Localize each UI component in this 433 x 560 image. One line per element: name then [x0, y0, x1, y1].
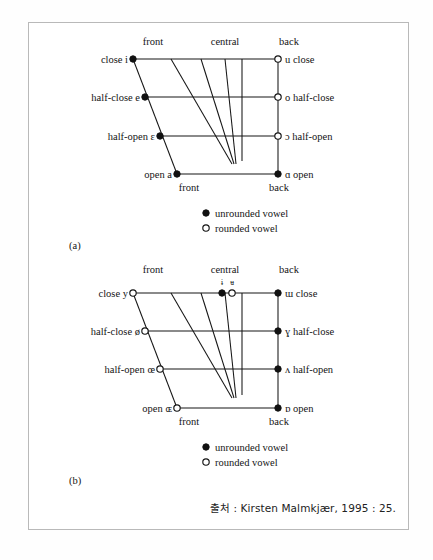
vowel-marker-barred-u — [229, 290, 235, 296]
left-label-close: close i — [101, 54, 128, 65]
left-label-half-open: half-open œ — [105, 364, 156, 375]
bottom-axis-back: back — [269, 416, 290, 427]
vowel-marker-a — [174, 171, 180, 177]
panel-b-label: (b) — [69, 475, 82, 487]
source-citation: 출처 : Kirsten Malmkjær, 1995 : 25. — [210, 500, 396, 515]
legend-label-rounded: rounded vowel — [215, 223, 278, 234]
front-axis-line — [133, 59, 177, 174]
vowel-marker-gamma — [275, 328, 281, 334]
central-label-barred-i: ɨ — [221, 278, 224, 287]
vowel-marker-y — [130, 290, 136, 296]
right-label-half-close: o half-close — [285, 92, 335, 103]
right-label-close: u close — [285, 54, 315, 65]
diagonal-line-2 — [201, 293, 234, 398]
central-label-barred-u: ʉ — [230, 278, 234, 287]
column-header-back: back — [279, 36, 300, 47]
vowel-marker-script-a — [275, 171, 281, 177]
front-axis-line — [133, 293, 177, 408]
bottom-axis-front: front — [179, 416, 199, 427]
figure-frame: front central back close i h — [28, 22, 409, 530]
panel-b: front central back ɨ ʉ — [29, 251, 410, 506]
vowel-marker-o-slash — [142, 328, 148, 334]
vowel-marker-turned-m — [275, 290, 281, 296]
vowel-marker-u — [275, 56, 281, 62]
legend-label-unrounded: unrounded vowel — [215, 442, 288, 453]
bottom-axis-front: front — [179, 182, 199, 193]
column-header-back: back — [279, 264, 300, 275]
left-label-half-close: half-close e — [91, 92, 140, 103]
vowel-marker-oe-ligature — [157, 366, 163, 372]
panel-a: front central back close i h — [29, 23, 410, 263]
left-label-open: open a — [144, 169, 172, 180]
vowel-marker-i — [130, 56, 136, 62]
column-header-central: central — [211, 264, 240, 275]
column-header-front: front — [143, 36, 163, 47]
panel-a-diagram: front central back close i h — [29, 23, 410, 263]
column-header-central: central — [211, 36, 240, 47]
vowel-marker-turned-v — [275, 366, 281, 372]
right-label-open: ɒ open — [285, 403, 314, 414]
vowel-marker-turned-script-a — [275, 405, 281, 411]
panel-b-diagram: front central back ɨ ʉ — [29, 251, 410, 506]
left-label-half-close: half-close ø — [91, 326, 140, 337]
figure-page: front central back close i h — [0, 0, 433, 560]
diagonal-line-3 — [225, 293, 236, 398]
vowel-marker-e — [142, 94, 148, 100]
right-label-open: ɑ open — [285, 169, 314, 180]
right-label-half-open: ʌ half-open — [285, 364, 334, 375]
vowel-marker-epsilon — [157, 133, 163, 139]
right-label-half-close: ɣ half-close — [285, 326, 335, 337]
diagonal-line-2 — [201, 59, 234, 164]
diagonal-line-3 — [225, 59, 236, 164]
legend-label-rounded: rounded vowel — [215, 457, 278, 468]
left-label-open: open ɶ — [142, 403, 172, 414]
legend-marker-rounded — [203, 225, 209, 231]
left-label-half-open: half-open ɛ — [108, 131, 156, 142]
right-label-half-open: ɔ half-open — [285, 131, 333, 142]
legend-label-unrounded: unrounded vowel — [215, 208, 288, 219]
column-header-front: front — [143, 264, 163, 275]
right-label-close: ɯ close — [285, 288, 318, 299]
left-label-close: close y — [99, 288, 129, 299]
legend-marker-rounded — [203, 459, 209, 465]
vowel-marker-open-o — [275, 133, 281, 139]
legend-marker-unrounded — [203, 444, 209, 450]
diagonal-line-1 — [171, 59, 232, 164]
diagonal-line-1 — [171, 293, 232, 398]
vowel-marker-barred-i — [219, 290, 225, 296]
vowel-marker-o — [275, 94, 281, 100]
bottom-axis-back: back — [269, 182, 290, 193]
legend-marker-unrounded — [203, 210, 209, 216]
vowel-marker-small-capital-oe — [174, 405, 180, 411]
